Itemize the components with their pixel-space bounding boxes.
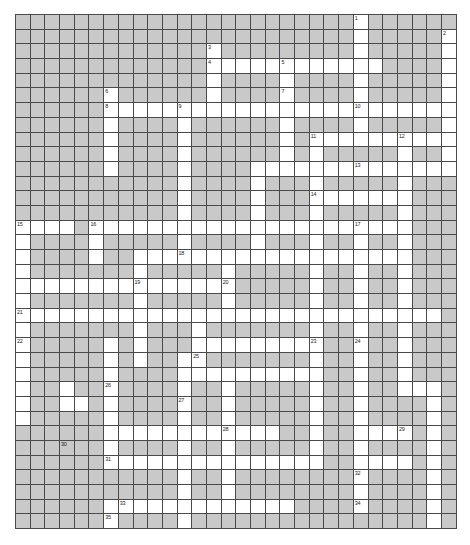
crossword-open-cell[interactable]: 1	[354, 15, 369, 30]
crossword-open-cell[interactable]	[134, 309, 149, 324]
crossword-open-cell[interactable]	[354, 353, 369, 368]
crossword-open-cell[interactable]: 31	[104, 456, 119, 471]
crossword-open-cell[interactable]	[413, 162, 428, 177]
crossword-open-cell[interactable]	[354, 323, 369, 338]
crossword-open-cell[interactable]	[398, 177, 413, 192]
crossword-open-cell[interactable]	[192, 323, 207, 338]
crossword-open-cell[interactable]	[398, 221, 413, 236]
crossword-open-cell[interactable]	[369, 456, 384, 471]
crossword-open-cell[interactable]: 23	[310, 338, 325, 353]
crossword-open-cell[interactable]	[324, 59, 339, 74]
crossword-open-cell[interactable]	[251, 338, 266, 353]
crossword-open-cell[interactable]	[354, 30, 369, 45]
crossword-open-cell[interactable]	[192, 250, 207, 265]
crossword-open-cell[interactable]	[383, 133, 398, 148]
crossword-open-cell[interactable]	[104, 279, 119, 294]
crossword-open-cell[interactable]	[119, 103, 134, 118]
crossword-open-cell[interactable]	[178, 382, 193, 397]
crossword-open-cell[interactable]	[222, 485, 237, 500]
crossword-open-cell[interactable]	[148, 103, 163, 118]
crossword-open-cell[interactable]	[251, 309, 266, 324]
crossword-open-cell[interactable]	[310, 250, 325, 265]
crossword-open-cell[interactable]	[354, 235, 369, 250]
crossword-open-cell[interactable]	[442, 103, 457, 118]
crossword-open-cell[interactable]	[398, 162, 413, 177]
crossword-open-cell[interactable]	[310, 309, 325, 324]
crossword-open-cell[interactable]	[251, 206, 266, 221]
crossword-open-cell[interactable]: 19	[134, 279, 149, 294]
crossword-open-cell[interactable]	[310, 147, 325, 162]
crossword-open-cell[interactable]: 17	[354, 221, 369, 236]
crossword-open-cell[interactable]	[280, 103, 295, 118]
crossword-open-cell[interactable]	[178, 133, 193, 148]
crossword-open-cell[interactable]	[251, 250, 266, 265]
crossword-open-cell[interactable]	[222, 470, 237, 485]
crossword-open-cell[interactable]	[192, 426, 207, 441]
crossword-open-cell[interactable]	[236, 426, 251, 441]
crossword-open-cell[interactable]	[251, 59, 266, 74]
crossword-open-cell[interactable]	[148, 500, 163, 515]
crossword-open-cell[interactable]: 14	[310, 191, 325, 206]
crossword-open-cell[interactable]	[427, 470, 442, 485]
crossword-open-cell[interactable]	[60, 382, 75, 397]
crossword-open-cell[interactable]	[104, 441, 119, 456]
crossword-open-cell[interactable]	[266, 500, 281, 515]
crossword-open-cell[interactable]	[178, 426, 193, 441]
crossword-open-cell[interactable]	[354, 382, 369, 397]
crossword-open-cell[interactable]: 34	[354, 500, 369, 515]
crossword-open-cell[interactable]	[310, 353, 325, 368]
crossword-open-cell[interactable]	[295, 103, 310, 118]
crossword-open-cell[interactable]	[75, 397, 90, 412]
crossword-open-cell[interactable]	[339, 309, 354, 324]
crossword-open-cell[interactable]	[222, 309, 237, 324]
crossword-open-cell[interactable]: 33	[119, 500, 134, 515]
crossword-open-cell[interactable]	[310, 456, 325, 471]
crossword-open-cell[interactable]	[398, 338, 413, 353]
crossword-open-cell[interactable]	[222, 221, 237, 236]
crossword-open-cell[interactable]	[104, 500, 119, 515]
crossword-open-cell[interactable]: 15	[16, 221, 31, 236]
crossword-open-cell[interactable]	[398, 235, 413, 250]
crossword-open-cell[interactable]	[251, 177, 266, 192]
crossword-open-cell[interactable]	[413, 103, 428, 118]
crossword-open-cell[interactable]	[31, 279, 46, 294]
crossword-open-cell[interactable]	[339, 162, 354, 177]
crossword-open-cell[interactable]	[354, 88, 369, 103]
crossword-open-cell[interactable]	[222, 500, 237, 515]
crossword-open-cell[interactable]	[163, 103, 178, 118]
crossword-open-cell[interactable]	[60, 309, 75, 324]
crossword-open-cell[interactable]	[75, 279, 90, 294]
crossword-open-cell[interactable]	[383, 221, 398, 236]
crossword-open-cell[interactable]	[354, 279, 369, 294]
crossword-open-cell[interactable]	[324, 309, 339, 324]
crossword-open-cell[interactable]	[16, 412, 31, 427]
crossword-open-cell[interactable]	[383, 456, 398, 471]
crossword-open-cell[interactable]: 29	[398, 426, 413, 441]
crossword-open-cell[interactable]	[104, 397, 119, 412]
crossword-open-cell[interactable]	[134, 426, 149, 441]
crossword-open-cell[interactable]	[369, 133, 384, 148]
crossword-open-cell[interactable]	[148, 279, 163, 294]
crossword-open-cell[interactable]	[148, 426, 163, 441]
crossword-open-cell[interactable]	[178, 485, 193, 500]
crossword-open-cell[interactable]	[324, 221, 339, 236]
crossword-open-cell[interactable]	[207, 88, 222, 103]
crossword-open-cell[interactable]	[354, 441, 369, 456]
crossword-open-cell[interactable]	[369, 59, 384, 74]
crossword-open-cell[interactable]	[442, 88, 457, 103]
crossword-open-cell[interactable]	[75, 309, 90, 324]
crossword-open-cell[interactable]	[310, 426, 325, 441]
crossword-open-cell[interactable]	[163, 456, 178, 471]
crossword-open-cell[interactable]	[178, 279, 193, 294]
crossword-open-cell[interactable]	[16, 382, 31, 397]
crossword-open-cell[interactable]	[222, 59, 237, 74]
crossword-open-cell[interactable]	[280, 147, 295, 162]
crossword-open-cell[interactable]	[236, 338, 251, 353]
crossword-open-cell[interactable]	[89, 279, 104, 294]
crossword-open-cell[interactable]	[178, 206, 193, 221]
crossword-open-cell[interactable]	[398, 147, 413, 162]
crossword-open-cell[interactable]	[16, 323, 31, 338]
crossword-open-cell[interactable]	[134, 500, 149, 515]
crossword-open-cell[interactable]	[222, 294, 237, 309]
crossword-open-cell[interactable]	[119, 456, 134, 471]
